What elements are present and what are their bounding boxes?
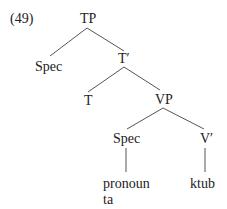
node-vp-spec: Spec <box>113 132 140 146</box>
node-tp-spec: Spec <box>35 60 62 74</box>
node-t-head: T <box>84 94 93 108</box>
leaf-pronoun-line1: pronoun <box>103 177 150 191</box>
node-t-bar: T′ <box>118 52 130 66</box>
edge-tbar-t <box>88 67 124 92</box>
edge-tbar-vp <box>124 67 160 90</box>
leaf-verb: ktub <box>190 177 215 191</box>
example-number: (49) <box>10 12 33 26</box>
edge-vp-spec <box>127 108 163 129</box>
leaf-pronoun-line2: ta <box>103 193 113 207</box>
edge-tp-spec <box>50 28 87 56</box>
node-v-bar: V′ <box>200 132 213 146</box>
node-tp: TP <box>80 12 96 26</box>
edge-vp-vbar <box>163 108 204 129</box>
node-vp: VP <box>155 93 173 107</box>
edge-tp-tbar <box>87 28 124 51</box>
